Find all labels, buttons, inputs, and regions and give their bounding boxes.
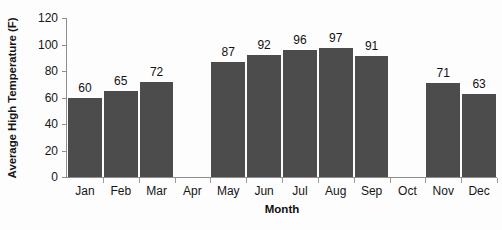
x-tick-label: Jul bbox=[282, 184, 318, 198]
y-axis-title-label: Average High Temperature (F) bbox=[6, 18, 18, 179]
bar-slot[interactable] bbox=[175, 18, 211, 177]
bar-value-label: 63 bbox=[461, 77, 497, 91]
bar-value-label: 96 bbox=[282, 33, 318, 47]
x-tick-mark bbox=[246, 178, 247, 183]
bar-rect[interactable] bbox=[283, 50, 317, 177]
x-tick-label: Dec bbox=[461, 184, 497, 198]
bar-value-label: 60 bbox=[67, 81, 103, 95]
x-tick-mark bbox=[354, 178, 355, 183]
plot-area: 60657287929697917163 bbox=[67, 18, 497, 177]
x-tick-label: Sep bbox=[354, 184, 390, 198]
x-tick-mark bbox=[497, 178, 498, 183]
bar-value-label: 87 bbox=[210, 45, 246, 59]
bar-slot[interactable]: 65 bbox=[103, 18, 139, 177]
x-tick-label: Feb bbox=[103, 184, 139, 198]
y-axis-title: Average High Temperature (F) bbox=[0, 0, 24, 196]
x-tick-mark bbox=[175, 178, 176, 183]
x-tick-label: Jun bbox=[246, 184, 282, 198]
x-tick-mark bbox=[318, 178, 319, 183]
bar-value-label: 92 bbox=[246, 38, 282, 52]
x-tick-mark bbox=[282, 178, 283, 183]
y-axis-tick-labels: 020406080100120 bbox=[26, 12, 62, 178]
y-tick-label: 40 bbox=[45, 117, 58, 131]
bar-slot[interactable]: 72 bbox=[139, 18, 175, 177]
bar-slot[interactable]: 96 bbox=[282, 18, 318, 177]
bar-rect[interactable] bbox=[211, 62, 245, 177]
y-tick-label: 60 bbox=[45, 91, 58, 105]
y-tick-label: 20 bbox=[45, 144, 58, 158]
bar-slot[interactable]: 92 bbox=[246, 18, 282, 177]
bar-rect[interactable] bbox=[104, 91, 138, 177]
bar-value-label: 91 bbox=[354, 39, 390, 53]
x-tick-label: Mar bbox=[139, 184, 175, 198]
bar-value-label: 97 bbox=[318, 31, 354, 45]
y-tick-label: 120 bbox=[38, 11, 58, 25]
bar-rect[interactable] bbox=[319, 48, 353, 177]
bar-rect[interactable] bbox=[140, 82, 174, 177]
bar-rect[interactable] bbox=[426, 83, 460, 177]
x-tick-mark bbox=[461, 178, 462, 183]
bar-value-label: 71 bbox=[425, 66, 461, 80]
bar-slot[interactable]: 97 bbox=[318, 18, 354, 177]
x-tick-mark bbox=[210, 178, 211, 183]
bar-rect[interactable] bbox=[247, 55, 281, 177]
x-tick-label: Aug bbox=[318, 184, 354, 198]
y-tick-label: 100 bbox=[38, 38, 58, 52]
bar-slot[interactable]: 91 bbox=[354, 18, 390, 177]
bar-slot[interactable]: 63 bbox=[461, 18, 497, 177]
bar-slot[interactable] bbox=[390, 18, 426, 177]
y-tick-label: 80 bbox=[45, 64, 58, 78]
y-tick-mark bbox=[62, 177, 67, 178]
x-tick-label: May bbox=[210, 184, 246, 198]
bar-chart-figure: Average High Temperature (F) 02040608010… bbox=[0, 0, 502, 230]
x-axis-tick-labels: JanFebMarAprMayJunJulAugSepOctNovDec bbox=[67, 184, 497, 202]
x-tick-label: Jan bbox=[67, 184, 103, 198]
x-tick-label: Oct bbox=[390, 184, 426, 198]
x-tick-label: Nov bbox=[425, 184, 461, 198]
y-tick-label: 0 bbox=[51, 170, 58, 184]
x-tick-mark bbox=[139, 178, 140, 183]
bar-value-label: 65 bbox=[103, 74, 139, 88]
bar-rect[interactable] bbox=[68, 98, 102, 178]
x-tick-label: Apr bbox=[175, 184, 211, 198]
x-tick-mark bbox=[425, 178, 426, 183]
bar-slot[interactable]: 87 bbox=[210, 18, 246, 177]
bar-rect[interactable] bbox=[462, 94, 496, 177]
x-axis-title: Month bbox=[67, 203, 497, 215]
bar-rect[interactable] bbox=[355, 56, 389, 177]
bar-slot[interactable]: 60 bbox=[67, 18, 103, 177]
x-tick-mark bbox=[390, 178, 391, 183]
x-tick-mark bbox=[103, 178, 104, 183]
bar-slot[interactable]: 71 bbox=[425, 18, 461, 177]
bar-value-label: 72 bbox=[139, 65, 175, 79]
